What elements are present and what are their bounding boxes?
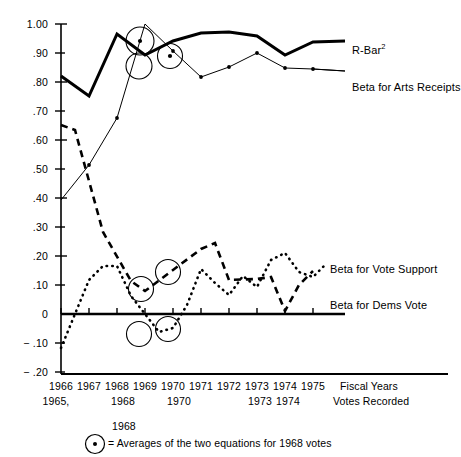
y-tick-label-0-60: .60 xyxy=(0,134,48,146)
votes-recorded-label-1974: 1974 xyxy=(266,395,310,407)
series-label-beta-dems-vote: Beta for Dems Vote xyxy=(330,299,427,311)
series-r-bar-squared xyxy=(61,32,345,96)
series-label-r-bar-squared: R-Bar2 xyxy=(352,42,386,56)
series-beta-vote-support xyxy=(61,125,313,311)
series-label-r-bar-text: R-Bar xyxy=(352,44,381,56)
y-tick-label-0-80: .80 xyxy=(0,76,48,88)
y-tick-label-0: 0 xyxy=(0,308,48,320)
legend-leader-lines xyxy=(313,69,345,71)
circled-average-annotations xyxy=(126,27,183,347)
series-label-r-bar-exponent: 2 xyxy=(381,42,385,51)
votes-recorded-label-1970: 1970 xyxy=(157,395,201,407)
y-tick-label-neg-0-10: − .10 xyxy=(0,337,48,349)
y-tick-label-0-50: .50 xyxy=(0,163,48,175)
y-tick-label-0-10: .10 xyxy=(0,279,48,291)
series-beta-dems-vote xyxy=(61,253,327,348)
footnote-circled-dot-icon xyxy=(80,433,110,455)
y-tick-label-neg-0-20: − .20 xyxy=(0,366,48,378)
y-tick-label-0-20: .20 xyxy=(0,250,48,262)
series-beta-arts-receipts xyxy=(61,24,345,200)
y-tick-label-0-40: .40 xyxy=(0,192,48,204)
votes-recorded-label-1965: 1965, xyxy=(34,395,78,407)
x-axis-row-label-fiscal-years: Fiscal Years xyxy=(340,380,398,392)
series-label-beta-arts-receipts: Beta for Arts Receipts xyxy=(352,81,461,93)
y-tick-label-0-30: .30 xyxy=(0,221,48,233)
y-tick-label-0-90: .90 xyxy=(0,47,48,59)
footnote-description: = Averages of the two equations for 1968… xyxy=(108,437,332,449)
votes-recorded-label-1968: 1968 xyxy=(101,395,145,407)
x-tick-label-1975: 1975 xyxy=(291,380,335,392)
y-tick-label-0-70: .70 xyxy=(0,105,48,117)
y-tick-label-1-00: 1.00 xyxy=(0,18,48,30)
footnote-year-1968: 1968 xyxy=(112,420,136,432)
series-label-beta-vote-support: Beta for Vote Support xyxy=(330,263,437,275)
x-axis-row-label-votes-recorded: Votes Recorded xyxy=(333,395,409,407)
